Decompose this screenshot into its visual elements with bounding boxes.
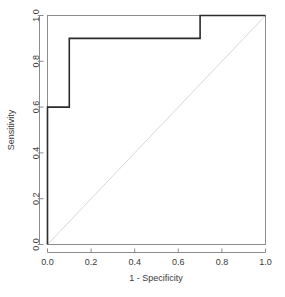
x-axis-tick-label: 0.0: [41, 257, 54, 267]
y-axis-tick-label: 0.0: [31, 238, 41, 251]
y-axis-title: Sensitivity: [6, 109, 16, 150]
x-axis-tick-label: 0.2: [85, 257, 98, 267]
y-axis-tick-label: 0.6: [31, 101, 41, 114]
y-axis-tick-label: 1.0: [31, 9, 41, 22]
y-axis-tick-label: 0.2: [31, 192, 41, 205]
x-axis-tick-label: 0.6: [172, 257, 185, 267]
x-axis-tick-label: 0.8: [216, 257, 229, 267]
x-axis-title: 1 - Specificity: [129, 273, 183, 283]
x-axis-tick-label: 1.0: [259, 257, 272, 267]
y-axis-tick-label: 0.8: [31, 55, 41, 68]
roc-plot-svg: 0.00.20.40.60.81.0 0.00.20.40.60.81.0 1 …: [0, 0, 285, 297]
x-axis-tick-label: 0.4: [128, 257, 141, 267]
roc-curve-figure: 0.00.20.40.60.81.0 0.00.20.40.60.81.0 1 …: [0, 0, 285, 297]
y-axis-tick-label: 0.4: [31, 147, 41, 160]
